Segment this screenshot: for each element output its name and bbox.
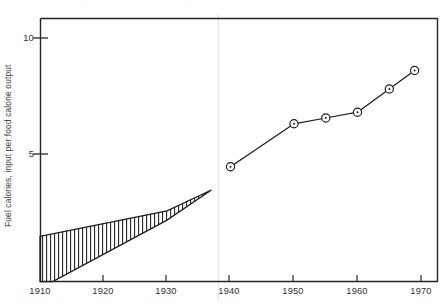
data-point-marker (226, 163, 234, 171)
axis-frame (41, 19, 438, 282)
chart-figure: .. . Fuel calories, input per food calor… (0, 0, 448, 307)
estimate-band-outline (40, 190, 211, 282)
plot-canvas (0, 0, 448, 307)
data-point-marker (353, 108, 361, 116)
data-point-marker (322, 114, 330, 122)
estimate-band-hatching (43, 150, 211, 290)
x-axis-ticks (103, 275, 421, 282)
data-point-marker (411, 66, 419, 74)
data-point-marker (290, 120, 298, 128)
data-point-marker (385, 85, 393, 93)
data-series-markers (226, 66, 418, 170)
